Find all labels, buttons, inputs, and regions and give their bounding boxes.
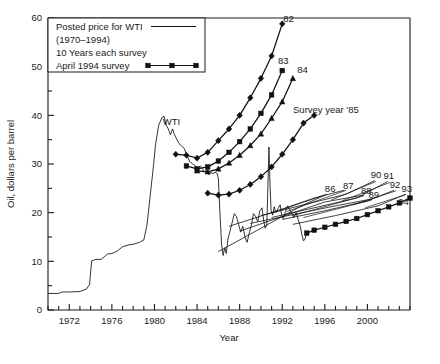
x-tick-label: 1984 [186, 315, 207, 326]
data-point-diamond [258, 75, 264, 81]
y-tick-label: 30 [31, 158, 42, 169]
data-point-square [170, 63, 175, 68]
data-point-square [269, 93, 274, 98]
data-point-diamond [184, 152, 190, 158]
data-point-square [312, 228, 317, 233]
x-tick-label: 1972 [59, 315, 80, 326]
data-point-square [365, 212, 370, 217]
legend-entry-label: (1970–1994) [56, 34, 110, 45]
annotation-label: Survey year '85 [293, 104, 359, 115]
annotation-label: 93 [402, 183, 413, 194]
annotation-label: 94 [398, 196, 409, 207]
data-point-square [333, 222, 338, 227]
data-point-diamond [205, 190, 211, 196]
annotation-label: 89 [369, 189, 380, 200]
x-tick-label: 1996 [314, 315, 335, 326]
data-point-square [304, 231, 309, 236]
annotation-label: WTI [163, 116, 180, 127]
annotation-label: 92 [390, 179, 401, 190]
data-point-square [194, 63, 199, 68]
data-point-diamond [269, 53, 275, 59]
annotation-label: 86 [325, 183, 336, 194]
legend-entry-label: Posted price for WTI [56, 21, 143, 32]
data-point-square [248, 127, 253, 132]
data-point-square [386, 205, 391, 210]
series-group [194, 75, 295, 174]
y-tick-label: 50 [31, 61, 42, 72]
annotation-label: 90 [371, 169, 382, 180]
data-point-triangle [280, 99, 285, 104]
data-point-diamond [216, 192, 222, 198]
data-point-square [216, 159, 221, 164]
annotation-leader-line [286, 190, 346, 211]
chart-canvas: 0102030405060197219761980198419881992199… [0, 0, 440, 364]
legend-entry-label: April 1994 survey [56, 60, 130, 71]
x-tick-label: 2000 [357, 315, 378, 326]
data-point-square [323, 225, 328, 230]
y-axis-title: Oil, dollars per barrel [5, 120, 16, 208]
y-tick-label: 20 [31, 207, 42, 218]
data-point-square [146, 63, 151, 68]
series-path [186, 71, 282, 169]
x-tick-label: 1988 [229, 315, 250, 326]
y-tick-label: 40 [31, 110, 42, 121]
data-point-diamond [173, 151, 179, 157]
data-point-square [376, 208, 381, 213]
data-point-diamond [194, 155, 200, 161]
data-point-square [237, 139, 242, 144]
data-point-triangle [216, 166, 221, 171]
x-tick-label: 1980 [144, 315, 165, 326]
annotation-label: 83 [278, 55, 289, 66]
series-group [205, 112, 317, 198]
x-tick-label: 1976 [101, 315, 122, 326]
annotation-label: 87 [343, 180, 354, 191]
x-axis-title: Year [219, 332, 238, 343]
legend-layer: Posted price for WTI(1970–1994)10 Years … [48, 18, 205, 72]
annotation-label: 84 [297, 64, 308, 75]
series-path [48, 116, 308, 293]
series-path [208, 115, 314, 195]
data-point-diamond [237, 187, 243, 193]
legend-entry-label: 10 Years each survey [56, 47, 147, 58]
data-point-square [259, 111, 264, 116]
data-point-square [227, 150, 232, 155]
data-point-square [184, 164, 189, 169]
data-point-square [344, 219, 349, 224]
oil-price-chart: 0102030405060197219761980198419881992199… [0, 0, 440, 364]
x-tick-label: 1992 [272, 315, 293, 326]
data-point-square [354, 216, 359, 221]
y-tick-label: 10 [31, 256, 42, 267]
annotation-label: 82 [283, 13, 294, 24]
data-point-square [280, 68, 285, 73]
series-group [48, 116, 308, 293]
y-tick-label: 0 [37, 304, 42, 315]
y-tick-label: 60 [31, 12, 42, 23]
data-point-diamond [226, 191, 232, 197]
data-point-triangle [290, 75, 295, 80]
